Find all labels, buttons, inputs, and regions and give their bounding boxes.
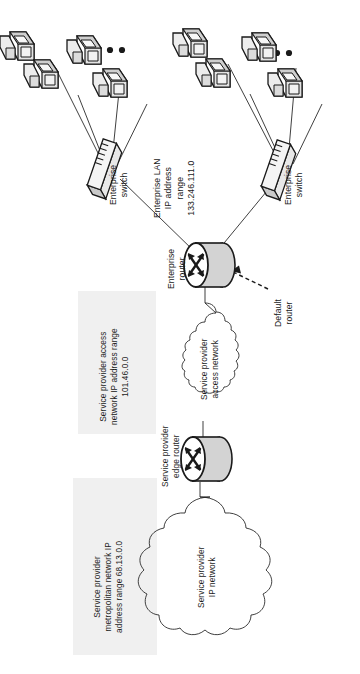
workstation-icon [67, 36, 101, 64]
label-sp-metro-region: Service provider metropolitan network IP… [92, 541, 124, 633]
label-sp-access-cloud: Service provider access network [199, 338, 221, 400]
label-enterprise-switch-right: Enterprise switch [283, 165, 306, 205]
node-layer [0, 0, 360, 674]
workstation-icon [242, 33, 276, 61]
workstation-icon [24, 60, 58, 88]
workstation-icon [0, 32, 34, 60]
router-icon [181, 437, 232, 481]
label-enterprise-lan: Enterprise LAN IP address range 133.246.… [152, 158, 198, 218]
workstation-icon [93, 69, 127, 97]
label-sp-access-region: Service provider access network IP addre… [98, 328, 130, 425]
label-default-router: Default router [273, 299, 296, 327]
label-enterprise-router: Enterprise router [166, 249, 189, 289]
network-diagram: Enterprise switch Enterprise LAN IP addr… [0, 0, 360, 674]
label-enterprise-switch-left: Enterprise switch [108, 165, 131, 205]
label-sp-ip-cloud: Service provider IP network [196, 546, 218, 608]
label-sp-edge-router: Service provider edge router [160, 425, 182, 487]
workstation-icon [173, 29, 207, 57]
workstation-icon [268, 69, 302, 97]
router-icon [184, 243, 235, 287]
workstation-icon [196, 59, 230, 87]
